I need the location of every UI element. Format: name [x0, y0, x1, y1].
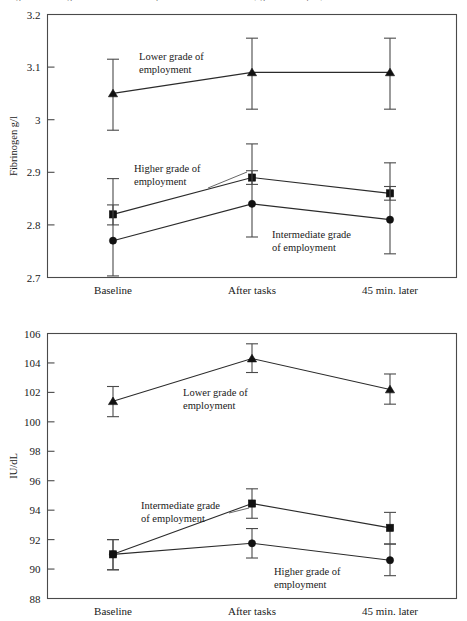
marker-triangle — [247, 354, 256, 362]
annotation-line-1: Higher grade of — [134, 163, 201, 174]
y-axis-ticklabels-bottom: 106104102100989694929088 — [24, 328, 41, 605]
annotation-line-2: of employment — [272, 242, 336, 253]
annotation-line-1: Lower grade of — [183, 387, 248, 398]
chart-fibrinogen: 3.23.132.92.82.7 Fibrinogen g/l Baseline… — [0, 0, 467, 300]
marker-square — [386, 524, 393, 531]
marker-circle — [386, 216, 393, 223]
annotation-line-2: employment — [274, 579, 327, 590]
y-tick-label: 94 — [30, 504, 42, 516]
marker-triangle — [108, 397, 117, 405]
category-label-baseline: Baseline — [94, 605, 132, 617]
y-axis-title-top: Fibrinogen g/l — [8, 116, 19, 176]
category-label-baseline: Baseline — [94, 284, 132, 296]
series-higher-grade-of-employment — [107, 529, 396, 576]
y-tick-label: 92 — [30, 534, 41, 546]
y-tick-label: 98 — [30, 445, 42, 457]
y-tick-label: 2.8 — [27, 219, 41, 231]
y-axis-title-bottom: IU/dL — [8, 453, 19, 479]
annotation-line-1: Lower grade of — [139, 51, 204, 62]
category-label-after-tasks: After tasks — [228, 284, 276, 296]
annotation-line-1: Intermediate grade — [272, 229, 351, 240]
category-label-45-min-later: 45 min. later — [362, 605, 418, 617]
series-lower-grade-of-employment — [107, 344, 396, 417]
chart-factor-viii: 106104102100989694929088 IU/dL BaselineA… — [0, 300, 467, 621]
annotation-lower-grade-top: Lower grade of employment — [139, 51, 204, 75]
plot-frame-bottom — [48, 334, 457, 599]
category-labels-bottom: BaselineAfter tasks45 min. later — [94, 605, 418, 617]
y-tick-label: 3.2 — [27, 9, 41, 21]
marker-square — [248, 500, 255, 507]
annotation-line-2: employment — [183, 400, 236, 411]
annotation-line-1: Higher grade of — [274, 566, 341, 577]
category-labels-top: BaselineAfter tasks45 min. later — [94, 284, 418, 296]
annotation-line-2: employment — [139, 64, 192, 75]
y-tick-label: 3.1 — [27, 61, 41, 73]
marker-circle — [109, 237, 116, 244]
y-tick-label: 2.9 — [27, 166, 41, 178]
series-group-bottom — [107, 344, 396, 576]
annotation-line-2: employment — [134, 176, 187, 187]
y-tick-label: 3 — [35, 114, 41, 126]
y-tick-label: 2.7 — [27, 272, 41, 284]
annotation-line-2: of employment — [141, 513, 205, 524]
y-axis-ticks-top — [48, 67, 55, 225]
y-tick-label: 90 — [30, 563, 42, 575]
error-bar — [246, 144, 258, 237]
y-tick-label: 100 — [24, 416, 41, 428]
annotation-lower-grade-bottom: Lower grade of employment — [183, 387, 248, 411]
y-tick-label: 106 — [24, 328, 41, 340]
annotation-intermediate-grade-top: Intermediate grade of employment — [272, 229, 351, 253]
marker-circle — [248, 540, 255, 547]
error-bar — [384, 163, 396, 254]
figure-page: Figure: Fibrinogen and factor VIII respo… — [0, 0, 467, 621]
error-bar — [107, 179, 119, 276]
y-tick-label: 102 — [24, 386, 41, 398]
y-tick-label: 104 — [24, 357, 41, 369]
y-tick-label: 96 — [30, 475, 42, 487]
marker-circle — [248, 200, 255, 207]
marker-circle — [386, 557, 393, 564]
annotation-line-1: Intermediate grade — [141, 500, 220, 511]
category-label-45-min-later: 45 min. later — [362, 284, 418, 296]
y-axis-ticks-bottom — [48, 363, 55, 569]
annotation-intermediate-grade-bottom: Intermediate grade of employment — [141, 500, 249, 524]
annotation-higher-grade-bottom: Higher grade of employment — [274, 566, 341, 590]
y-axis-ticklabels-top: 3.23.132.92.82.7 — [27, 9, 41, 284]
category-label-after-tasks: After tasks — [228, 605, 276, 617]
marker-circle — [109, 551, 116, 558]
y-tick-label: 88 — [30, 593, 42, 605]
annotation-higher-grade-top: Higher grade of employment — [134, 163, 247, 188]
